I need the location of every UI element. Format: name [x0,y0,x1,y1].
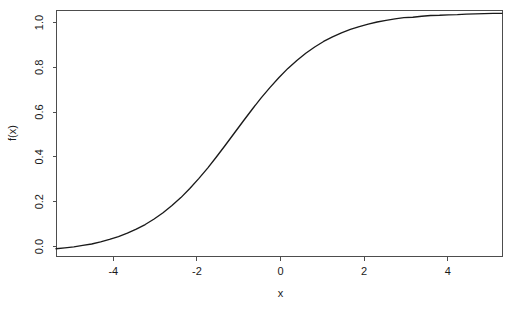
plot-background [0,0,520,312]
y-tick-label-2: 0.4 [33,149,45,164]
x-tick-label-0: -4 [108,265,118,277]
x-axis-title: x [278,287,284,299]
y-tick-label-0: 0.0 [33,239,45,254]
y-axis-title: f(x) [6,125,18,141]
x-tick-label-3: 2 [361,265,367,277]
x-tick-label-2: 0 [277,265,283,277]
y-tick-label-3: 0.6 [33,104,45,119]
chart-figure: 0.0 0.2 0.4 0.6 0.8 1.0 -4 -2 0 2 4 x f(… [0,0,520,312]
x-tick-label-4: 4 [445,265,451,277]
sigmoid-plot: 0.0 0.2 0.4 0.6 0.8 1.0 -4 -2 0 2 4 x f(… [0,0,520,312]
y-tick-label-1: 0.2 [33,194,45,209]
y-tick-label-5: 1.0 [33,15,45,30]
x-tick-label-1: -2 [192,265,202,277]
y-tick-label-4: 0.8 [33,60,45,75]
